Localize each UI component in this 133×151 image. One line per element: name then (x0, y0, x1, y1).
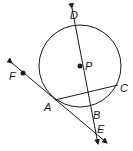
point-f-dot (21, 71, 26, 76)
label-e: E (97, 123, 105, 135)
point-p-dot (78, 64, 83, 69)
label-c: C (120, 82, 128, 94)
chord-ac (55, 85, 118, 100)
geometry-diagram: D P C A B E F (0, 0, 133, 151)
label-f: F (9, 70, 17, 82)
label-b: B (93, 109, 100, 121)
line-de (72, 8, 98, 144)
label-p: P (85, 60, 93, 72)
line-fe-tangent (12, 63, 107, 143)
label-d: D (70, 9, 78, 21)
label-a: A (43, 101, 51, 113)
